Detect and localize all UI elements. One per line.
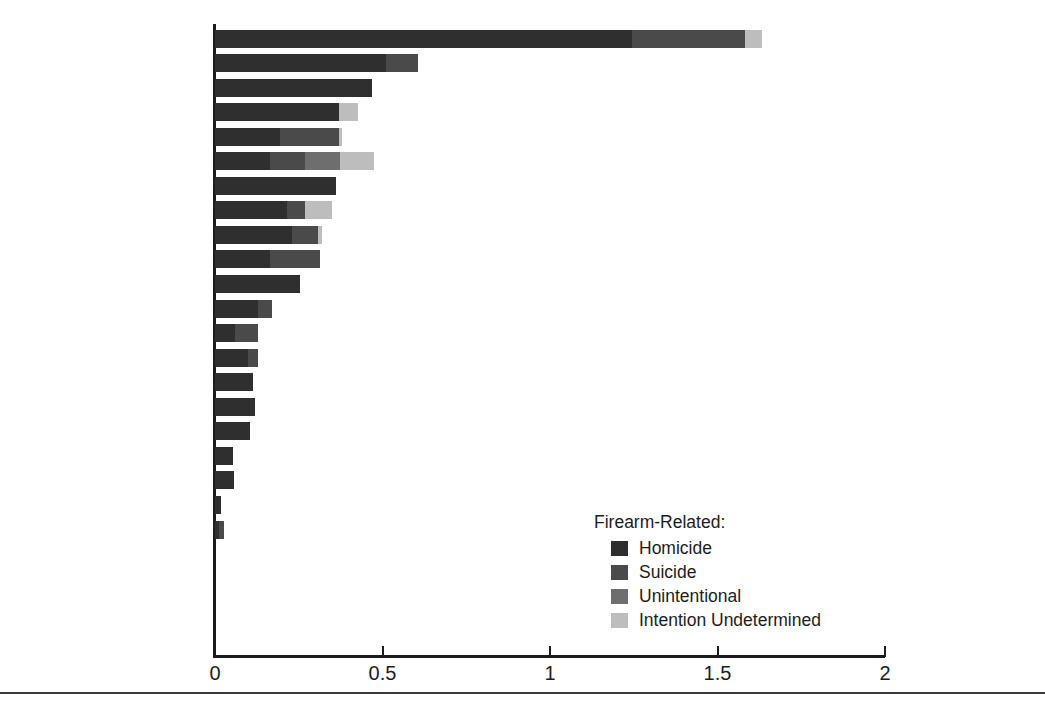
bar-segment-homicide [215, 300, 258, 318]
stacked-bar [215, 103, 358, 121]
bar-segment-suicide [235, 324, 258, 342]
legend-swatch-unintentional [611, 589, 628, 604]
stacked-bar [215, 128, 342, 146]
bar-segment-suicide [270, 250, 320, 268]
legend-label: Unintentional [639, 586, 741, 606]
bar-segment-suicide [270, 152, 305, 170]
legend-item: Homicide [594, 536, 821, 560]
stacked-bar [215, 250, 320, 268]
legend-label: Intention Undetermined [639, 610, 821, 630]
bar-segment-homicide [215, 447, 233, 465]
x-tick-label-0: 0 [209, 662, 220, 684]
bar-segment-homicide [215, 373, 253, 391]
legend-swatch-suicide [611, 565, 628, 580]
bar-segment-homicide [215, 471, 234, 489]
bar-segment-homicide [215, 349, 248, 367]
bar-segment-suicide [287, 201, 305, 219]
bar-segment-homicide [215, 250, 270, 268]
bar-segment-unintentional [305, 152, 340, 170]
stacked-bar [215, 79, 372, 97]
stacked-bar [215, 447, 233, 465]
x-tick-3 [717, 646, 719, 657]
bar-segment-suicide [219, 521, 224, 539]
stacked-bar [215, 398, 255, 416]
bar-segment-intention-undetermined [339, 128, 342, 146]
bar-segment-homicide [215, 226, 292, 244]
stacked-bar [215, 300, 272, 318]
stacked-bar [215, 422, 250, 440]
stacked-bar [215, 496, 221, 514]
bar-segment-homicide [215, 128, 280, 146]
page-rule-divider [0, 692, 1045, 694]
bar-segment-intention-undetermined [339, 103, 358, 121]
x-tick-2 [549, 646, 551, 657]
x-tick-label-3: 1.5 [704, 662, 732, 684]
bar-segment-intention-undetermined [340, 152, 375, 170]
bar-segment-homicide [215, 103, 339, 121]
legend-swatch-homicide [611, 541, 628, 556]
bar-segment-homicide [215, 177, 336, 195]
chart-legend: Firearm-Related: HomicideSuicideUnintent… [594, 512, 821, 632]
x-tick-label-4: 2 [879, 662, 890, 684]
bar-segment-suicide [386, 54, 418, 72]
bar-segment-homicide [215, 398, 255, 416]
bar-segment-intention-undetermined [318, 226, 322, 244]
bar-segment-suicide [248, 349, 258, 367]
bar-segment-homicide [215, 152, 270, 170]
stacked-bar [215, 177, 336, 195]
legend-items: HomicideSuicideUnintentionalIntention Un… [594, 536, 821, 632]
bar-segment-homicide [215, 275, 300, 293]
bar-segment-homicide [215, 79, 372, 97]
x-tick-0 [214, 646, 216, 657]
x-tick-1 [382, 646, 384, 657]
legend-title: Firearm-Related: [594, 512, 821, 533]
bar-segment-homicide [215, 422, 250, 440]
stacked-bar [215, 324, 258, 342]
stacked-bar [215, 521, 224, 539]
firearm-death-rate-chart: 00.511.52 Firearm-Related: HomicideSuici… [0, 0, 1045, 717]
bar-segment-homicide [215, 201, 287, 219]
stacked-bar [215, 373, 253, 391]
legend-label: Suicide [639, 562, 696, 582]
stacked-bar [215, 152, 374, 170]
bar-segment-suicide [280, 128, 339, 146]
bar-segment-suicide [292, 226, 318, 244]
stacked-bar [215, 349, 258, 367]
bar-segment-homicide [215, 30, 632, 48]
stacked-bar [215, 226, 322, 244]
stacked-bar [215, 471, 234, 489]
bar-segment-suicide [632, 30, 745, 48]
legend-label: Homicide [639, 538, 712, 558]
legend-item: Intention Undetermined [594, 608, 821, 632]
legend-swatch-undetermined [611, 613, 628, 628]
bar-segment-intention-undetermined [305, 201, 332, 219]
bar-segment-intention-undetermined [745, 30, 762, 48]
stacked-bar [215, 30, 762, 48]
x-tick-4 [884, 646, 886, 657]
stacked-bar [215, 54, 418, 72]
bar-segment-homicide [215, 54, 386, 72]
legend-item: Unintentional [594, 584, 821, 608]
x-tick-label-2: 1 [544, 662, 555, 684]
stacked-bar [215, 275, 300, 293]
bar-segment-homicide [215, 496, 221, 514]
legend-item: Suicide [594, 560, 821, 584]
bar-segment-homicide [215, 324, 235, 342]
stacked-bar [215, 201, 332, 219]
x-tick-label-1: 0.5 [369, 662, 397, 684]
bar-segment-suicide [258, 300, 272, 318]
